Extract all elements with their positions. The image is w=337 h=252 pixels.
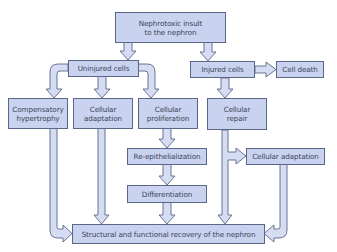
arrow-differentiation-to-recovery [159,202,175,224]
flowchart-canvas: .ar { fill: #d6ddf3; stroke: #5a6788; st… [0,0,337,252]
arrow-injured-to-repair [217,78,233,98]
node-label: Nephrotoxic insult to the nephron [139,19,202,37]
arrow-insult-to-injured [200,42,216,61]
arrow-uninjured-to-compensatory [46,64,68,98]
node-label: Structural and functional recovery of th… [82,230,256,239]
arrow-repair-to-recovery [218,130,246,224]
arrow-compensatory-to-recovery [50,128,72,242]
node-cellular-proliferation: Cellular proliferation [138,98,198,129]
node-nephrotoxic-insult: Nephrotoxic insult to the nephron [115,12,226,43]
node-cellular-adaptation-right: Cellular adaptation [246,148,325,165]
arrow-uninjured-to-proliferation [138,64,159,98]
arrow-proliferation-to-reepithelialization [159,128,175,148]
node-uninjured-cells: Uninjured cells [68,60,139,77]
arrow-uninjured-to-adaptation [94,76,110,98]
node-label: Cell death [282,65,317,74]
node-label: Differentiation [142,190,192,199]
node-cellular-adaptation-left: Cellular adaptation [73,98,133,129]
node-cellular-repair: Cellular repair [207,98,267,130]
node-label: Injured cells [201,65,243,74]
node-label: Re-epithelialization [134,152,201,161]
node-label: Cellular proliferation [147,105,190,123]
node-differentiation: Differentiation [127,185,207,203]
node-label: Cellular adaptation [252,152,319,161]
node-label: Cellular adaptation [84,105,122,123]
node-label: Compensatory hypertrophy [12,105,63,123]
node-label: Cellular repair [224,105,251,123]
arrow-adaptation-to-recovery [94,128,109,224]
arrow-insult-to-uninjured [120,42,136,60]
node-injured-cells: Injured cells [190,61,255,78]
node-re-epithelialization: Re-epithelialization [127,148,207,165]
arrow-reepithelialization-to-differentiation [159,164,175,185]
arrow-injured-to-cell-death [255,62,276,77]
node-label: Uninjured cells [78,64,130,73]
node-compensatory-hypertrophy: Compensatory hypertrophy [8,98,68,129]
node-cell-death: Cell death [276,61,324,78]
node-structural-functional-recovery: Structural and functional recovery of th… [72,224,265,244]
arrow-adaptation-right-to-recovery [264,164,287,242]
